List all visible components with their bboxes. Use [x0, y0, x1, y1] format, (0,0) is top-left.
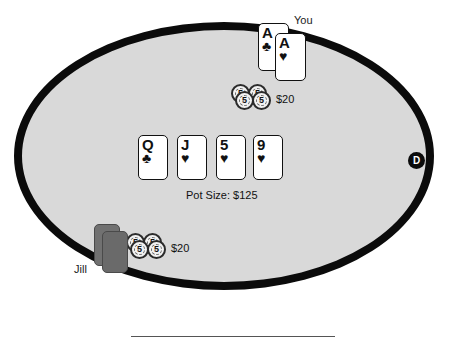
bet-chips-jill[interactable]: 5 5 5 5 $20 — [126, 233, 216, 267]
player-name-you: You — [294, 14, 313, 26]
chip-value: 5 — [259, 96, 264, 105]
heart-icon: ♥ — [257, 151, 265, 165]
club-icon: ♣ — [142, 151, 151, 165]
chip-value: 5 — [137, 245, 142, 254]
dealer-button[interactable]: D — [408, 152, 425, 169]
heart-icon: ♥ — [220, 151, 228, 165]
bet-chips-you[interactable]: 5 5 5 5 $20 — [231, 84, 321, 118]
bottom-divider — [131, 336, 335, 337]
community-card-1[interactable]: Q ♣ — [138, 135, 168, 180]
heart-icon: ♥ — [279, 49, 287, 63]
player-name-jill: Jill — [74, 263, 87, 275]
chip-value: 5 — [154, 245, 159, 254]
bet-amount-you: $20 — [276, 93, 294, 105]
hole-card-you-2[interactable]: A ♥ — [275, 33, 306, 81]
heart-icon: ♥ — [181, 151, 189, 165]
poker-table-scene: A ♣ A ♥ You 5 5 5 5 $20 Q ♣ J ♥ 5 ♥ 9 ♥ — [0, 0, 466, 341]
community-card-4[interactable]: 9 ♥ — [253, 135, 283, 180]
community-card-2[interactable]: J ♥ — [177, 135, 207, 180]
poker-chip: 5 — [252, 91, 271, 110]
chip-value: 5 — [242, 96, 247, 105]
poker-chip: 5 — [147, 240, 166, 259]
bet-amount-jill: $20 — [171, 242, 189, 254]
community-card-3[interactable]: 5 ♥ — [216, 135, 246, 180]
pot-size-label: Pot Size: $125 — [186, 189, 258, 201]
club-icon: ♣ — [262, 39, 271, 53]
face-down-card-jill-2 — [102, 231, 128, 273]
